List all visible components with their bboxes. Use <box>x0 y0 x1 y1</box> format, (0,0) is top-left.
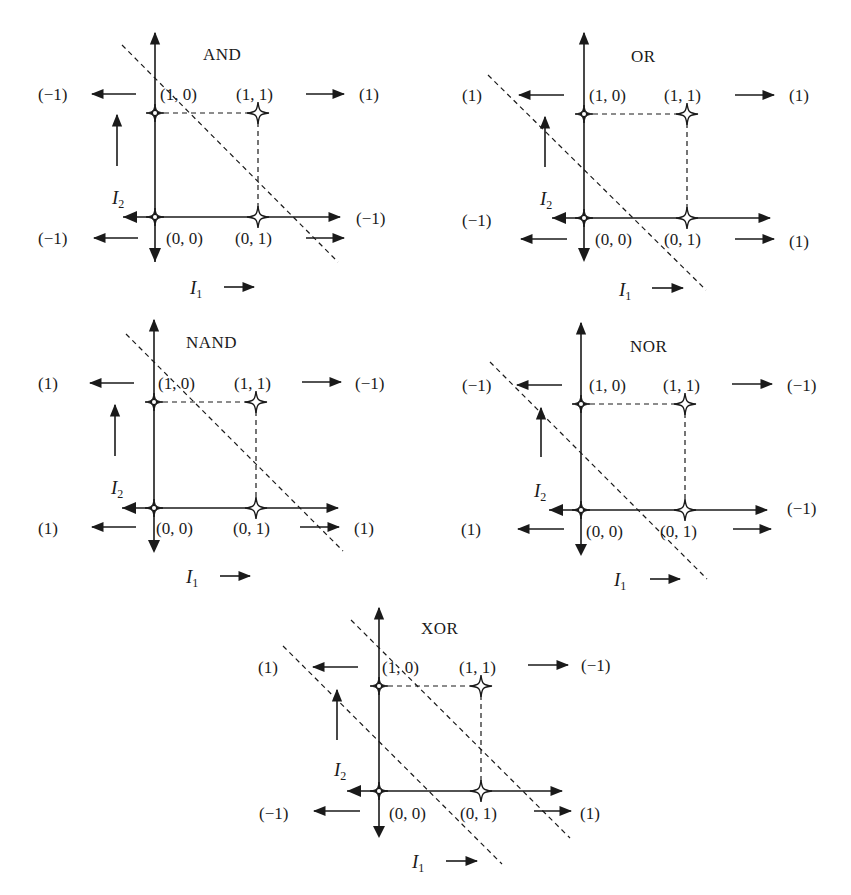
label-point-0-0: (0, 0) <box>586 523 623 540</box>
gate-title-nand: NAND <box>186 334 237 351</box>
output-bottom-left: (−1) <box>259 805 288 822</box>
output-bottom-left: (1) <box>38 520 58 537</box>
diagram-canvas <box>0 0 851 895</box>
output-top-right: (−1) <box>355 375 384 392</box>
panel-nand <box>90 320 343 576</box>
decision-boundary <box>488 75 706 290</box>
output-axis-left: (−1) <box>462 212 491 229</box>
gate-title-nor: NOR <box>630 338 667 355</box>
output-top-left: (−1) <box>38 86 67 103</box>
label-point-0-1: (0, 1) <box>660 523 697 540</box>
label-point-1-1: (1, 1) <box>663 377 700 394</box>
axis-label-i2: I2 <box>534 481 546 503</box>
output-bottom-right: (1) <box>354 520 374 537</box>
label-point-0-1: (0, 1) <box>235 230 272 247</box>
point-1-1 <box>247 102 269 124</box>
output-bottom-right: (1) <box>789 233 809 250</box>
label-point-1-0: (1, 0) <box>589 377 626 394</box>
axis-label-i2: I2 <box>334 760 346 782</box>
label-point-0-0: (0, 0) <box>389 805 426 822</box>
point-0-0 <box>146 208 164 226</box>
label-point-0-0: (0, 0) <box>156 520 193 537</box>
gate-title-xor: XOR <box>421 620 458 637</box>
axis-left-arrow-icon <box>123 211 137 223</box>
label-point-1-1: (1, 1) <box>664 87 701 104</box>
label-point-1-0: (1, 0) <box>160 86 197 103</box>
output-bottom-left: (−1) <box>38 230 67 247</box>
label-point-0-0: (0, 0) <box>166 230 203 247</box>
axis-label-i2: I2 <box>540 189 552 211</box>
label-point-1-0: (1, 0) <box>589 87 626 104</box>
label-point-0-0: (0, 0) <box>595 231 632 248</box>
label-point-0-1: (0, 1) <box>233 520 270 537</box>
output-top-left: (−1) <box>462 377 491 394</box>
gate-title-or: OR <box>631 48 656 65</box>
axis-label-i2: I2 <box>112 188 124 210</box>
axis-down-arrow-icon <box>149 248 161 262</box>
label-point-1-1: (1, 1) <box>234 375 271 392</box>
point-1-0 <box>146 104 164 122</box>
output-bottom-left: (1) <box>461 521 481 538</box>
output-top-left: (1) <box>38 375 58 392</box>
output-top-left: (1) <box>462 87 482 104</box>
label-point-1-0: (1, 0) <box>382 659 419 676</box>
label-point-0-1: (0, 1) <box>664 231 701 248</box>
axis-label-i1: I1 <box>186 567 198 589</box>
decision-boundary-lower <box>283 646 502 864</box>
panel-xor <box>283 608 571 864</box>
axis-label-i2: I2 <box>111 478 123 500</box>
axis-label-i1: I1 <box>412 852 424 874</box>
point-0-1 <box>247 206 269 228</box>
axis-label-i1: I1 <box>619 280 631 302</box>
output-axis-right: (−1) <box>787 500 816 517</box>
output-top-left: (1) <box>258 659 278 676</box>
panel-nor <box>490 323 772 579</box>
panel-and <box>92 33 344 287</box>
output-top-right: (−1) <box>581 657 610 674</box>
output-bottom-right: (1) <box>580 805 600 822</box>
axis-label-i1: I1 <box>614 570 626 592</box>
output-top-right: (1) <box>789 87 809 104</box>
gate-title-and: AND <box>203 46 241 63</box>
panel-or <box>488 33 774 290</box>
label-point-1-1: (1, 1) <box>459 659 496 676</box>
label-point-1-0: (1, 0) <box>158 375 195 392</box>
output-top-right: (−1) <box>787 377 816 394</box>
label-point-0-1: (0, 1) <box>460 805 497 822</box>
label-point-1-1: (1, 1) <box>236 86 273 103</box>
output-top-right: (1) <box>359 86 379 103</box>
axis-label-i1: I1 <box>190 278 202 300</box>
output-axis-right: (−1) <box>356 210 385 227</box>
